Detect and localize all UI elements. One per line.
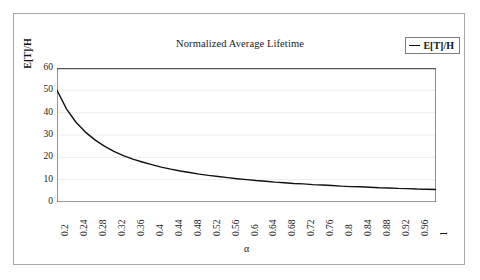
y-axis-tick-label: 30 (27, 130, 53, 140)
x-axis-tick-label: 0.56 (232, 219, 242, 236)
x-axis-tick-label: 0.76 (326, 219, 336, 236)
data-series-line (57, 90, 436, 189)
legend: E[T]/H (405, 37, 460, 54)
x-axis-tick-label: 0.88 (383, 219, 393, 236)
x-axis-tick-label: 0.32 (118, 219, 128, 236)
x-axis-tick-label: 0.64 (269, 219, 279, 236)
x-axis-tick-label: 0.44 (175, 219, 185, 236)
y-axis-tick-labels: 0102030405060 (23, 68, 53, 202)
x-axis-tick-label: 0.84 (364, 219, 374, 236)
x-axis-tick-label: 0.28 (99, 219, 109, 236)
x-axis-tick-label: 0.24 (80, 219, 90, 236)
x-axis-tick-label: 0.52 (213, 219, 223, 236)
y-axis-tick-label: 0 (27, 197, 53, 207)
x-axis-tick-labels: 0.20.240.280.320.360.40.440.480.520.560.… (57, 205, 436, 241)
y-axis-tick-label: 50 (27, 85, 53, 95)
x-axis-tick-label: 0.68 (288, 219, 298, 236)
x-axis-tick-label: 0.36 (137, 219, 147, 236)
y-axis-tick-label: 20 (27, 152, 53, 162)
x-axis-tick-label: 0.96 (421, 219, 431, 236)
x-axis-tick-label: 0.2 (61, 224, 71, 236)
x-axis-tick-label: 0.48 (194, 219, 204, 236)
x-axis-tick-label: 0.6 (251, 224, 261, 236)
legend-line-marker (409, 45, 420, 46)
y-axis-tick-label: 10 (27, 175, 53, 185)
y-axis-tick-label: 60 (27, 63, 53, 73)
chart-figure: Normalized Average Lifetime E[T]/H E[T]/… (0, 0, 480, 280)
x-axis-tick-label: 0.92 (402, 219, 412, 236)
plot-svg (57, 68, 436, 202)
plot-area (57, 68, 436, 202)
x-axis-tick-label: 1 (440, 231, 450, 236)
legend-label: E[T]/H (423, 40, 454, 51)
y-axis-tick-label: 40 (27, 108, 53, 118)
x-axis-tick-label: 0.72 (307, 219, 317, 236)
gridlines (57, 68, 436, 180)
x-axis-tick-label: 0.8 (345, 224, 355, 236)
x-axis-title: α (57, 243, 436, 254)
x-axis-tick-label: 0.4 (156, 224, 166, 236)
chart-title: Normalized Average Lifetime (120, 38, 360, 49)
